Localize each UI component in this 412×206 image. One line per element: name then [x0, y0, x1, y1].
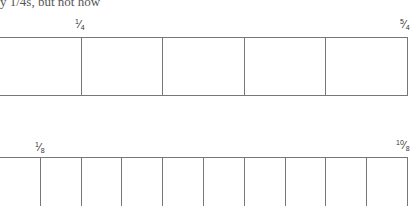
- fraction-strip-eighths: [0, 157, 408, 206]
- strip-cell: [366, 158, 408, 206]
- strip-cell: [40, 158, 81, 206]
- fraction-strip-fourths: [0, 37, 408, 96]
- denominator: 4: [406, 24, 410, 31]
- strip-cell: [162, 158, 203, 206]
- denominator: 4: [81, 24, 85, 31]
- strip-cell: [244, 38, 326, 95]
- strip-cell: [121, 158, 162, 206]
- strip-cell: [0, 38, 81, 95]
- strip-cell: [244, 158, 285, 206]
- strip-cell: [81, 38, 163, 95]
- strip-cell: [0, 158, 40, 206]
- strip-cell: [203, 158, 244, 206]
- strip-cell: [162, 38, 244, 95]
- numerator: 10: [396, 139, 404, 146]
- cut-off-heading-text: y 1/4s, but not how: [0, 0, 100, 10]
- strip-cell: [325, 158, 366, 206]
- top-left-fraction-label: 1⁄4: [75, 18, 85, 31]
- denominator: 8: [41, 147, 45, 154]
- bottom-right-fraction-label: 10⁄8: [396, 139, 410, 152]
- denominator: 8: [406, 145, 410, 152]
- bottom-left-fraction-label: 1⁄8: [35, 141, 45, 154]
- strip-cell: [325, 38, 408, 95]
- top-right-fraction-label: 5⁄4: [400, 18, 410, 31]
- strip-cell: [81, 158, 122, 206]
- strip-cell: [285, 158, 326, 206]
